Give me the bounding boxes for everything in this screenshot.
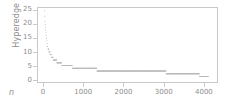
x-tick-mark	[43, 83, 44, 87]
x-axis-label: n	[9, 88, 14, 97]
x-tick-label: 1000	[68, 89, 98, 96]
y-tick-label: 25	[16, 6, 32, 13]
hyperedge-size-chart: Hyperedge size n 0510152025 010002000300…	[0, 0, 226, 101]
x-tick-mark	[83, 83, 84, 87]
x-tick-label: 0	[28, 89, 58, 96]
data-series-canvas	[38, 8, 217, 82]
x-tick-mark	[164, 83, 165, 87]
x-tick-label: 2000	[108, 89, 138, 96]
series-points	[44, 10, 209, 77]
y-tick-label: 15	[16, 34, 32, 41]
y-tick-label: 5	[16, 63, 32, 70]
y-tick-label: 10	[16, 49, 32, 56]
x-tick-label: 3000	[149, 89, 179, 96]
x-tick-mark	[204, 83, 205, 87]
x-tick-mark	[123, 83, 124, 87]
x-tick-label: 4000	[189, 89, 219, 96]
y-tick-label: 0	[16, 77, 32, 84]
y-tick-label: 20	[16, 20, 32, 27]
plot-area	[37, 7, 218, 83]
